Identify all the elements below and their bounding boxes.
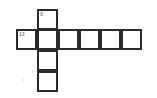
- clue-number-9: 9: [40, 11, 43, 17]
- clue-number-13: 13: [19, 31, 25, 37]
- cell-down-4[interactable]: [37, 71, 58, 92]
- cell-across-6[interactable]: [121, 29, 142, 50]
- cell-intersection[interactable]: [37, 29, 58, 50]
- cell-9-down-start[interactable]: 9: [37, 9, 58, 30]
- crossword-grid: 9 13: [0, 0, 157, 98]
- stray-mark: [22, 79, 24, 81]
- cell-across-4[interactable]: [79, 29, 100, 50]
- cell-across-5[interactable]: [100, 29, 121, 50]
- cell-across-3[interactable]: [58, 29, 79, 50]
- cell-down-3[interactable]: [37, 50, 58, 71]
- cell-13-across-start[interactable]: 13: [16, 29, 37, 50]
